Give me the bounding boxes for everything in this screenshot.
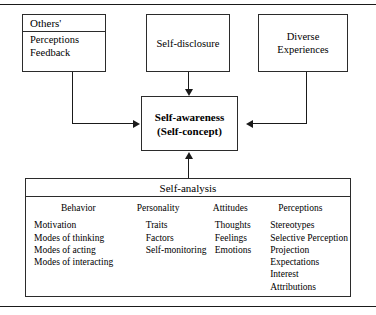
list-item: Factors (146, 232, 213, 244)
list-item: Expectations (270, 256, 350, 268)
list-item: Interest (270, 268, 350, 280)
others-box-body: Perceptions Feedback (23, 32, 105, 59)
self-awareness-diagram: Others' Perceptions Feedback Self-disclo… (0, 0, 376, 315)
arrowhead-self-analysis-to-self-awareness (185, 152, 193, 159)
list-item: Emotions (215, 244, 264, 256)
self-analysis-column-behavior: Behavior Motivation Modes of thinking Mo… (26, 202, 137, 293)
self-awareness-box: Self-awareness (Self-concept) (141, 96, 238, 151)
diverse-experiences-label-line2: Experiences (277, 43, 328, 56)
others-item-feedback: Feedback (30, 47, 105, 60)
list-item: Selective Perception (270, 232, 350, 244)
self-disclosure-box: Self-disclosure (146, 14, 230, 72)
self-analysis-column-perceptions: Perceptions Stereotypes Selective Percep… (264, 202, 350, 293)
list-item: Stereotypes (270, 219, 350, 231)
others-box-header: Others' (23, 15, 105, 32)
list-item: Traits (146, 219, 213, 231)
self-analysis-column-personality: Personality Traits Factors Self-monitori… (137, 202, 213, 293)
column-title-attitudes: Attitudes (213, 202, 264, 214)
self-analysis-box-header: Self-analysis (26, 179, 350, 197)
arrowhead-diverse-experiences-to-self-awareness (246, 120, 253, 128)
list-item: Modes of thinking (34, 232, 137, 244)
self-analysis-box-body: Behavior Motivation Modes of thinking Mo… (26, 197, 350, 293)
column-items-attitudes: Thoughts Feelings Emotions (213, 219, 264, 256)
list-item: Self-monitoring (146, 244, 213, 256)
column-title-behavior: Behavior (34, 202, 137, 214)
column-items-perceptions: Stereotypes Selective Perception Project… (270, 219, 350, 293)
column-title-perceptions: Perceptions (270, 202, 350, 214)
top-horizontal-rule (0, 4, 376, 5)
diverse-experiences-box: Diverse Experiences (258, 14, 348, 72)
list-item: Modes of acting (34, 244, 137, 256)
list-item: Feelings (215, 232, 264, 244)
bottom-horizontal-rule (0, 306, 376, 307)
column-items-behavior: Motivation Modes of thinking Modes of ac… (34, 219, 137, 268)
self-analysis-box: Self-analysis Behavior Motivation Modes … (25, 178, 351, 297)
self-analysis-column-attitudes: Attitudes Thoughts Feelings Emotions (213, 202, 264, 293)
list-item: Projection (270, 244, 350, 256)
column-items-personality: Traits Factors Self-monitoring (137, 219, 213, 256)
list-item: Attributions (270, 281, 350, 293)
others-item-perceptions: Perceptions (30, 34, 105, 47)
connector-self-disclosure-vertical (188, 72, 189, 89)
self-disclosure-label: Self-disclosure (157, 38, 220, 49)
column-title-personality: Personality (137, 202, 213, 214)
list-item: Modes of interacting (34, 256, 137, 268)
self-awareness-label-line2: (Self-concept) (157, 124, 222, 138)
connector-diverse-experiences-vertical (306, 72, 307, 124)
arrowhead-self-disclosure-to-self-awareness (185, 89, 193, 96)
connector-self-analysis-vertical (188, 159, 189, 178)
others-box: Others' Perceptions Feedback (22, 14, 106, 72)
list-item: Thoughts (215, 219, 264, 231)
arrowhead-others-to-self-awareness (133, 120, 140, 128)
connector-diverse-experiences-horizontal (253, 123, 307, 124)
list-item: Motivation (34, 219, 137, 231)
connector-others-horizontal (72, 123, 133, 124)
self-awareness-label-line1: Self-awareness (155, 110, 224, 124)
connector-others-vertical (72, 72, 73, 124)
diverse-experiences-label-line1: Diverse (287, 30, 320, 43)
